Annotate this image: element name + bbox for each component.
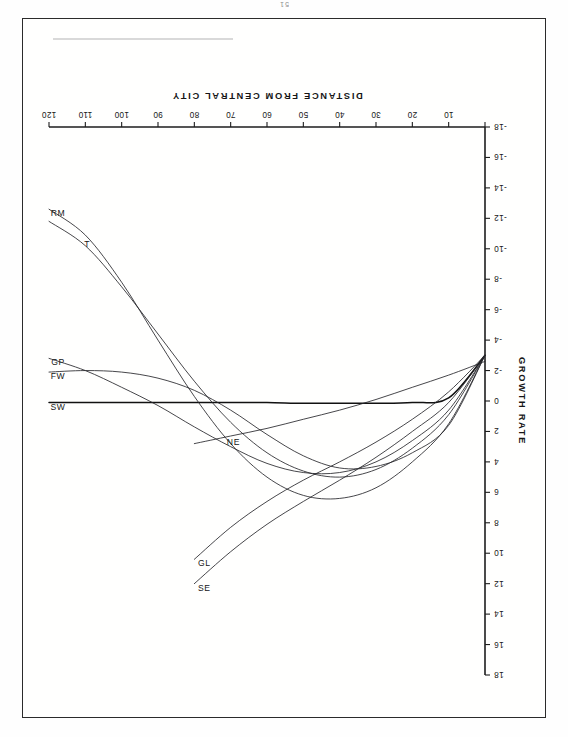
y-tick-label: 0 [494,396,499,405]
x-tick-label: 20 [407,110,417,119]
series-label-ne: NE [227,437,240,447]
series-curve-rm [49,209,485,499]
x-tick-label: 70 [226,110,236,119]
y-tick-label: -2 [494,366,502,375]
y-tick-label: -12 [494,213,507,222]
x-tick-label: 90 [153,110,163,119]
y-tick-label: 12 [494,579,504,588]
y-tick-label: -10 [494,244,507,253]
rotated-figure-content: -18-16-14-12-10-8-6-4-202468101214161810… [23,19,547,719]
y-tick-label: 10 [494,548,504,557]
x-tick-label: 120 [42,110,57,119]
series-label-gl: GL [198,558,211,568]
y-axis-title: GROWTH RATE [517,357,527,445]
series-label-rm: RM [51,208,66,218]
series-label-fw: FW [51,371,66,381]
y-tick-label: 8 [494,518,499,527]
x-tick-label: 80 [189,110,199,119]
scanned-page: 51 -18-16-14-12-10-8-6-4-202468101214161… [0,0,568,737]
series-label-t: T [84,239,90,249]
y-tick-label: -14 [494,183,507,192]
series-curve-sw [49,355,485,403]
y-tick-label: -6 [494,305,502,314]
series-curve-fw [49,355,485,469]
x-axis-title: DISTANCE FROM CENTRAL CITY [171,91,363,101]
plot-area: -18-16-14-12-10-8-6-4-202468101214161810… [23,19,547,719]
series-label-sw: SW [50,402,65,412]
growth-rate-line-chart: -18-16-14-12-10-8-6-4-202468101214161810… [23,19,547,719]
x-tick-label: 110 [78,110,92,119]
series-curve-se [194,355,485,583]
y-tick-label: 4 [494,457,499,466]
y-tick-label: -16 [494,152,507,161]
x-tick-label: 40 [335,110,345,119]
series-label-se: SE [198,583,211,593]
x-tick-label: 60 [262,110,272,119]
y-tick-label: 16 [494,640,504,649]
x-tick-label: 100 [114,110,129,119]
y-tick-label: -4 [494,335,502,344]
y-tick-label: 18 [494,670,504,679]
y-tick-label: 2 [494,426,499,435]
y-tick-label: 14 [494,609,504,618]
y-tick-label: 6 [494,487,499,496]
figure-frame: -18-16-14-12-10-8-6-4-202468101214161810… [22,18,546,718]
y-tick-label: -18 [494,122,507,131]
x-tick-label: 50 [298,110,308,119]
x-tick-label: 10 [444,110,454,119]
y-tick-label: -8 [494,274,502,283]
series-curve-gl [194,355,485,559]
page-number: 51 [0,1,568,8]
x-tick-label: 30 [371,110,381,119]
series-curve-t [49,221,485,477]
series-label-gp: GP [51,357,65,367]
